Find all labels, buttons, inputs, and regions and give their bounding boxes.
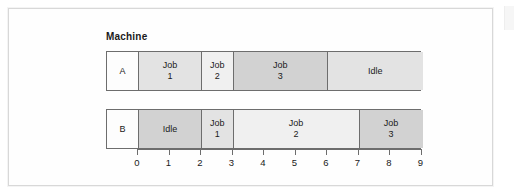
axis-tick <box>263 149 264 155</box>
axis-tick <box>326 149 327 155</box>
gantt-segment: Job3 <box>234 52 329 90</box>
gantt-segment: Job1 <box>202 110 234 148</box>
axis-tick-label: 7 <box>348 157 368 168</box>
page-edge-sliver <box>504 6 514 30</box>
axis-tick <box>421 149 422 155</box>
gantt-segment: Job3 <box>360 110 423 148</box>
segment-label-line1: Job <box>210 118 225 129</box>
gantt-segment: Idle <box>328 52 423 90</box>
time-axis: 0123456789 <box>137 149 421 150</box>
segment-label-line2: 1 <box>167 71 172 82</box>
axis-tick <box>295 149 296 155</box>
axis-tick-label: 3 <box>222 157 242 168</box>
gantt-segment: Idle <box>139 110 202 148</box>
axis-tick <box>389 149 390 155</box>
machine-label-b: B <box>107 110 139 148</box>
segment-label-line1: Job <box>163 60 178 71</box>
axis-tick-label: 5 <box>285 157 305 168</box>
segment-label-line2: 2 <box>293 129 298 140</box>
segment-label-line1: Job <box>210 60 225 71</box>
axis-tick-label: 0 <box>127 157 147 168</box>
screenshot-root: Machine A Job1Job2Job3Idle B IdleJob1Job… <box>0 0 516 194</box>
gantt-card: Machine A Job1Job2Job3Idle B IdleJob1Job… <box>8 8 493 186</box>
axis-tick-label: 4 <box>253 157 273 168</box>
segment-label-line1: Idle <box>163 124 178 135</box>
gantt-segment: Job1 <box>139 52 202 90</box>
axis-tick-label: 9 <box>411 157 431 168</box>
axis-tick <box>200 149 201 155</box>
axis-tick <box>169 149 170 155</box>
gantt-row-b: B IdleJob1Job2Job3 <box>106 109 421 149</box>
segment-label-line1: Job <box>273 60 288 71</box>
axis-tick <box>232 149 233 155</box>
segment-label-line2: 1 <box>215 129 220 140</box>
machine-label-a: A <box>107 52 139 90</box>
gantt-row-a: A Job1Job2Job3Idle <box>106 51 421 91</box>
segment-label-line2: 2 <box>215 71 220 82</box>
axis-tick-label: 1 <box>159 157 179 168</box>
axis-tick <box>137 149 138 155</box>
gantt-chart: A Job1Job2Job3Idle B IdleJob1Job2Job3 01… <box>9 9 494 187</box>
segment-label-line1: Idle <box>368 66 383 77</box>
axis-tick <box>358 149 359 155</box>
segment-label-line1: Job <box>384 118 399 129</box>
axis-tick-label: 6 <box>316 157 336 168</box>
gantt-segment: Job2 <box>202 52 234 90</box>
axis-tick-label: 8 <box>379 157 399 168</box>
axis-tick-label: 2 <box>190 157 210 168</box>
segment-label-line2: 3 <box>278 71 283 82</box>
segment-label-line1: Job <box>289 118 304 129</box>
segment-label-line2: 3 <box>388 129 393 140</box>
gantt-segment: Job2 <box>234 110 360 148</box>
